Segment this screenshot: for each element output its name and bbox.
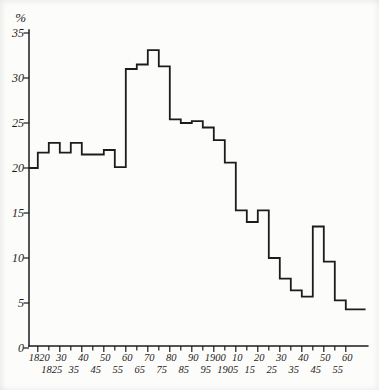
svg-text:40: 40 — [298, 352, 309, 363]
svg-text:70: 70 — [144, 352, 155, 363]
svg-text:40: 40 — [78, 352, 89, 363]
svg-text:45: 45 — [91, 364, 102, 375]
svg-text:55: 55 — [113, 364, 124, 375]
tick-labels: 05101520253035%1820304050607080901900102… — [11, 10, 353, 375]
svg-text:60: 60 — [342, 352, 353, 363]
y-unit-label: % — [15, 10, 26, 25]
scanned-chart-page: 05101520253035%1820304050607080901900102… — [0, 0, 379, 390]
svg-text:25: 25 — [12, 116, 24, 130]
step-chart: 05101520253035%1820304050607080901900102… — [0, 0, 379, 390]
svg-text:1900: 1900 — [205, 352, 227, 363]
svg-text:20: 20 — [12, 161, 24, 175]
svg-text:15: 15 — [12, 206, 24, 220]
axes — [29, 30, 368, 346]
svg-text:30: 30 — [11, 71, 24, 85]
tick-marks — [24, 33, 346, 352]
svg-text:30: 30 — [55, 352, 67, 363]
svg-text:1825: 1825 — [41, 364, 62, 375]
svg-text:30: 30 — [275, 352, 287, 363]
svg-text:85: 85 — [179, 364, 190, 375]
svg-text:35: 35 — [68, 364, 80, 375]
svg-text:65: 65 — [135, 364, 146, 375]
svg-text:35: 35 — [288, 364, 300, 375]
svg-text:90: 90 — [188, 352, 199, 363]
svg-text:80: 80 — [166, 352, 177, 363]
svg-text:45: 45 — [311, 364, 322, 375]
svg-text:10: 10 — [12, 251, 24, 265]
svg-text:1905: 1905 — [217, 364, 238, 375]
svg-text:75: 75 — [157, 364, 168, 375]
svg-text:35: 35 — [11, 26, 24, 40]
svg-text:95: 95 — [201, 364, 212, 375]
svg-text:55: 55 — [333, 364, 344, 375]
svg-text:25: 25 — [267, 364, 278, 375]
svg-text:15: 15 — [245, 364, 256, 375]
svg-text:1820: 1820 — [29, 352, 51, 363]
svg-text:60: 60 — [122, 352, 133, 363]
svg-text:50: 50 — [320, 352, 331, 363]
svg-text:20: 20 — [254, 352, 265, 363]
svg-text:0: 0 — [18, 341, 24, 355]
svg-text:5: 5 — [18, 296, 24, 310]
svg-text:50: 50 — [100, 352, 111, 363]
step-series — [29, 50, 366, 309]
svg-text:10: 10 — [232, 352, 243, 363]
